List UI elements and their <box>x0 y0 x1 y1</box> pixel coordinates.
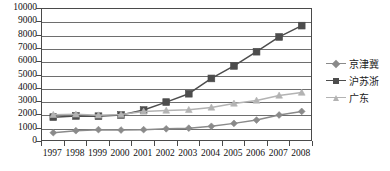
x-axis-tick <box>64 141 65 146</box>
y-axis-tick-label: 10000 <box>0 3 37 13</box>
data-point-marker <box>231 63 238 70</box>
data-point-marker <box>208 123 215 130</box>
data-point-marker <box>208 75 215 82</box>
data-point-marker <box>253 48 260 55</box>
legend-label: 沪苏浙 <box>349 76 379 87</box>
legend-item-2[interactable]: 沪苏浙 <box>326 73 390 89</box>
x-axis-tick <box>244 141 245 146</box>
legend-marker-diamond-icon <box>326 58 346 70</box>
data-point-marker <box>50 129 57 136</box>
series-line <box>53 26 301 118</box>
data-point-marker <box>163 99 170 106</box>
series-3 <box>50 89 305 118</box>
data-point-marker <box>118 127 125 134</box>
data-point-marker <box>253 117 260 124</box>
legend-item-1[interactable]: 京津冀 <box>326 56 390 72</box>
y-axis-tick-label: 6000 <box>0 56 37 66</box>
data-point-marker <box>276 112 283 119</box>
legend-label: 京津冀 <box>349 59 379 70</box>
legend-label: 广东 <box>349 93 369 104</box>
data-point-marker <box>72 127 79 134</box>
x-axis-tick-label: 2008 <box>284 148 318 158</box>
y-axis-tick-label: 4000 <box>0 83 37 93</box>
x-axis-tick <box>312 141 313 146</box>
y-axis-tick-label: 0 <box>0 136 37 146</box>
y-axis-tick-label: 8000 <box>0 30 37 40</box>
series-1 <box>50 108 305 136</box>
line-chart: 0100020003000400050006000700080009000100… <box>0 0 390 171</box>
x-axis-tick <box>131 141 132 146</box>
data-point-marker <box>140 126 147 133</box>
x-axis-tick <box>177 141 178 146</box>
x-axis-tick <box>222 141 223 146</box>
x-axis-tick <box>154 141 155 146</box>
data-point-marker <box>298 108 305 115</box>
series-line <box>53 93 301 116</box>
y-axis-tick-label: 7000 <box>0 43 37 53</box>
y-axis-tick-label: 3000 <box>0 96 37 106</box>
data-point-marker <box>185 90 192 97</box>
data-point-marker <box>298 22 305 29</box>
x-axis-tick <box>267 141 268 146</box>
plot-area <box>41 8 312 141</box>
data-point-marker <box>95 126 102 133</box>
chart-legend: 京津冀沪苏浙广东 <box>326 56 390 107</box>
x-axis-tick <box>199 141 200 146</box>
y-axis-tick-label: 2000 <box>0 109 37 119</box>
series-2 <box>50 22 305 120</box>
data-point-marker <box>276 34 283 41</box>
y-axis-tick-label: 5000 <box>0 70 37 80</box>
x-axis-tick <box>109 141 110 146</box>
y-axis-tick-label: 1000 <box>0 123 37 133</box>
x-axis-tick <box>289 141 290 146</box>
y-axis-tick-label: 9000 <box>0 16 37 26</box>
legend-item-3[interactable]: 广东 <box>326 90 390 106</box>
series-layer <box>42 9 313 142</box>
x-axis-tick <box>86 141 87 146</box>
data-point-marker <box>163 125 170 132</box>
data-point-marker <box>231 120 238 127</box>
legend-marker-square-icon <box>326 75 346 87</box>
x-axis-tick <box>41 141 42 146</box>
legend-marker-triangle-icon <box>326 92 346 104</box>
data-point-marker <box>185 125 192 132</box>
